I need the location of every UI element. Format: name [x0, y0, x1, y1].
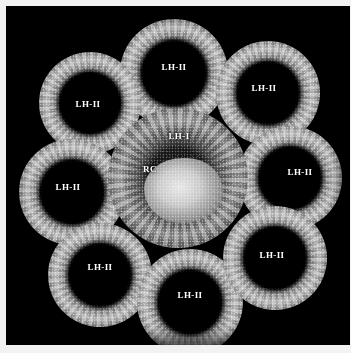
- label-lh2-top-right: LH-II: [251, 83, 276, 93]
- complex-lhi-rc: [108, 108, 248, 248]
- label-lh2-right: LH-II: [287, 167, 312, 177]
- label-lh2-bottom-right: LH-II: [259, 250, 284, 260]
- label-lh2-bottom: LH-II: [177, 290, 202, 300]
- figure-container: LH-II LH-II LH-II LH-II LH-II LH-II LH-I…: [0, 0, 351, 353]
- label-rc: RC: [143, 164, 157, 174]
- label-lh2-top-left: LH-II: [75, 99, 100, 109]
- label-lh2-top: LH-II: [161, 62, 186, 72]
- label-lh2-bottom-left: LH-II: [87, 262, 112, 272]
- label-lhi: LH-I: [168, 131, 189, 141]
- surface-grain: [48, 223, 152, 327]
- complex-lh2-bottom-left: [48, 223, 152, 327]
- label-lh2-left: LH-II: [55, 182, 80, 192]
- micrograph-panel: LH-II LH-II LH-II LH-II LH-II LH-II LH-I…: [6, 6, 350, 345]
